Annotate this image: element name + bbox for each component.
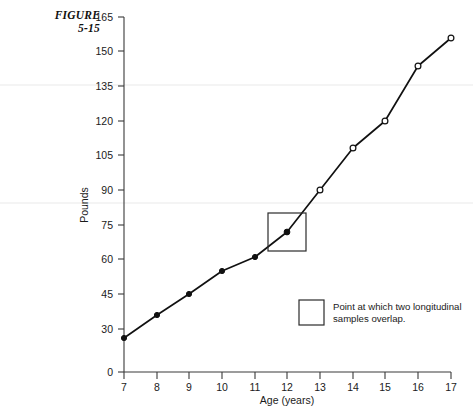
data-point-age-7[interactable] [121,335,126,340]
legend-text-line1: Point at which two longitudinal [333,301,462,312]
data-point-age-15[interactable] [382,118,388,124]
data-markers [121,35,454,341]
data-point-age-14[interactable] [350,145,356,151]
chart-plot-area: 165 150 135 120 105 90 75 60 45 30 0 [0,0,473,408]
open-square-marker-icon [299,300,324,325]
y-tick-label-105: 105 [95,149,113,161]
x-axis-title: Age (years) [260,394,314,406]
x-tick-label-16: 16 [412,381,424,393]
x-tick-label-11: 11 [250,381,261,393]
data-point-age-10[interactable] [219,268,224,273]
x-tick-label-8: 8 [154,381,160,393]
y-tick-label-120: 120 [95,115,113,127]
legend: Point at which two longitudinal samples … [299,300,462,325]
x-tick-label-14: 14 [347,381,359,393]
x-tick-label-13: 13 [314,381,326,393]
y-tick-label-60: 60 [101,253,113,265]
y-tick-label-30: 30 [101,323,113,335]
line-chart-svg: 165 150 135 120 105 90 75 60 45 30 0 [0,0,473,408]
y-tick-label-45: 45 [101,288,113,300]
data-point-age-9[interactable] [186,291,191,296]
x-axis-tick-labels: 7 8 9 10 11 12 13 14 15 16 17 [121,381,457,393]
x-tick-label-15: 15 [379,381,391,393]
y-axis-tick-labels: 165 150 135 120 105 90 75 60 45 30 0 [95,11,113,378]
x-tick-label-10: 10 [216,381,228,393]
x-tick-label-9: 9 [186,381,192,393]
y-tick-label-0: 0 [107,366,113,378]
data-point-age-13[interactable] [317,187,323,193]
data-point-age-8[interactable] [154,312,159,317]
x-axis-ticks [124,372,451,379]
data-point-age-16[interactable] [415,63,421,69]
data-point-age-17[interactable] [448,35,454,41]
legend-text-line2: samples overlap. [333,313,406,324]
y-tick-label-135: 135 [95,80,113,92]
x-tick-label-12: 12 [281,381,293,393]
y-tick-label-165: 165 [95,11,113,23]
y-axis-title: Pounds [78,187,90,223]
x-tick-label-17: 17 [445,381,457,393]
data-point-age-12[interactable] [284,229,290,235]
y-tick-label-75: 75 [101,219,113,231]
x-tick-label-7: 7 [121,381,127,393]
y-tick-label-150: 150 [95,45,113,57]
y-axis-ticks [118,17,124,372]
data-point-age-11[interactable] [252,254,257,259]
y-tick-label-90: 90 [101,184,113,196]
data-line-series-1 [124,38,451,338]
